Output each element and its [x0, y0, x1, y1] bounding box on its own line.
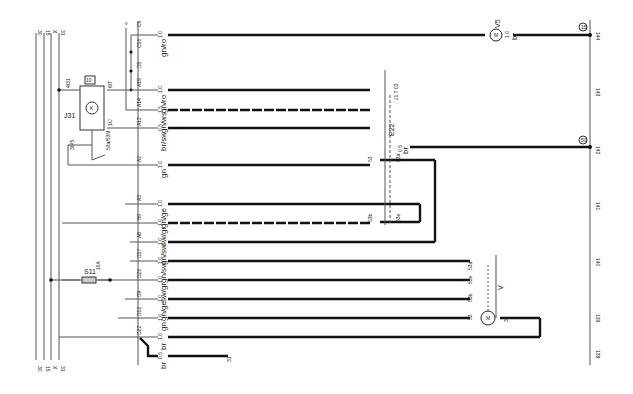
- rail-label-15-bottom: 15: [45, 366, 51, 372]
- svg-text:1.0: 1.0: [157, 333, 163, 340]
- svg-text:4/31: 4/31: [65, 78, 71, 88]
- svg-text:1.0: 1.0: [157, 295, 163, 302]
- pin-A12: A12: [136, 117, 142, 126]
- rail-label-31-bottom: 31: [60, 366, 66, 372]
- ground-ref-label: 31: [226, 356, 232, 362]
- pin-D12: D12: [136, 307, 142, 316]
- rail-label-31: 31: [60, 30, 66, 36]
- pin-D20: D20: [136, 269, 142, 278]
- bus-label-v: v: [125, 20, 128, 26]
- pin-A3: A3: [136, 195, 142, 201]
- current-track: 144 143 142 141 140 139 138: [595, 32, 601, 359]
- pin-D17: D17: [136, 249, 142, 258]
- track-141: 141: [595, 202, 601, 211]
- svg-text:1.0: 1.0: [157, 276, 163, 283]
- wire-label-A12: br/sw: [159, 132, 168, 151]
- e22-out-wire-label: br: [401, 147, 410, 154]
- track-140: 140: [595, 258, 601, 267]
- switch-label: E22: [388, 123, 395, 136]
- svg-text:1.0: 1.0: [157, 219, 163, 226]
- track-139: 139: [595, 314, 601, 323]
- track-144: 144: [595, 32, 601, 41]
- wiper-motor-label: V: [497, 285, 504, 290]
- svg-text:53a: 53a: [395, 153, 401, 162]
- switch-part: J1 T 03: [393, 83, 399, 100]
- svg-text:50: 50: [581, 137, 587, 143]
- pin-A2: A2: [136, 156, 142, 162]
- rail-label-15: 15: [45, 30, 51, 36]
- svg-text:M: M: [486, 315, 490, 321]
- svg-text:31: 31: [503, 316, 509, 322]
- washer-pump-label: V5: [494, 19, 501, 28]
- washer-wire-label: br: [510, 33, 519, 40]
- ground-bus: 15 50: [579, 20, 592, 365]
- svg-text:1.0: 1.0: [157, 238, 163, 245]
- rail-label-30-bottom: 30: [37, 366, 43, 372]
- wiper-motor-v: M V 53a 53 53b 53e 31: [467, 255, 509, 325]
- svg-text:0.5: 0.5: [157, 124, 163, 131]
- svg-text:15: 15: [581, 24, 587, 30]
- relay-j31: K 10 J31 4/31 6/T 1/J 3/P5 53a/53M: [57, 76, 113, 165]
- relay-label: J31: [64, 112, 75, 119]
- svg-text:1.0: 1.0: [157, 161, 163, 168]
- wire-label-C9: gn/ro: [159, 38, 168, 57]
- relay-number: 10: [86, 77, 92, 83]
- pin-A19: A19: [136, 78, 142, 87]
- track-142: 142: [595, 146, 601, 155]
- wire-label-D12: gn: [159, 322, 168, 331]
- pin-B9: B9: [136, 214, 142, 220]
- track-138: 138: [595, 350, 601, 359]
- wire-label-D22: br: [159, 343, 168, 350]
- supply-rails: 30 15 X 31 30 15 X 31: [36, 30, 66, 372]
- svg-text:53b: 53b: [467, 293, 473, 302]
- wiring-diagram: 30 15 X 31 30 15 X 31 v C9 C10 D5 A19 A1…: [0, 0, 633, 394]
- pin-D22: D22: [136, 326, 142, 335]
- rail-label-x-bottom: X: [52, 366, 58, 370]
- svg-text:M: M: [494, 32, 498, 38]
- wire-label-A2: gn: [159, 169, 168, 178]
- pin-C10: C10: [136, 39, 142, 48]
- svg-text:0.5: 0.5: [157, 352, 163, 359]
- svg-text:1.0: 1.0: [157, 86, 163, 93]
- connector-labels: C9 C10 D5 A19 A14 A12 A2 A3 B9 A6 D17 D2…: [136, 20, 142, 335]
- fuse-rating: 15A: [95, 260, 101, 270]
- pin-C9: C9: [136, 20, 142, 27]
- svg-text:1.0: 1.0: [157, 31, 163, 38]
- svg-text:53: 53: [467, 314, 473, 320]
- track-143: 143: [595, 88, 601, 97]
- pin-D9: D9: [136, 290, 142, 297]
- svg-text:53e: 53e: [395, 213, 401, 222]
- rail-label-30: 30: [37, 30, 43, 36]
- pin-D5: D5: [136, 61, 142, 68]
- svg-text:1.0: 1.0: [157, 314, 163, 321]
- wire-label-ground: br: [159, 362, 168, 369]
- wiper-switch-e22: E22 J1 T 03 53 53b 53e 53a: [367, 70, 401, 225]
- pin-A6: A6: [136, 232, 142, 238]
- rail-label-x: X: [52, 30, 58, 34]
- svg-text:53a/53M: 53a/53M: [105, 131, 111, 150]
- svg-text:1/J: 1/J: [107, 119, 113, 126]
- svg-text:53a: 53a: [467, 261, 473, 270]
- svg-text:53: 53: [367, 156, 373, 162]
- pin-A14: A14: [136, 98, 142, 107]
- svg-text:1.0: 1.0: [157, 200, 163, 207]
- svg-text:53e: 53e: [467, 275, 473, 284]
- svg-text:1.5: 1.5: [157, 106, 163, 113]
- svg-text:53b: 53b: [367, 213, 373, 222]
- svg-text:6/T: 6/T: [107, 81, 113, 88]
